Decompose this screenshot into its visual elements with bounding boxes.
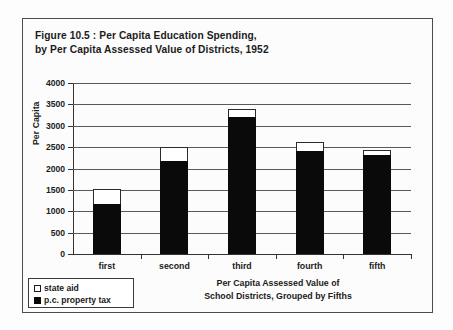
title-line-2: by Per Capita Assessed Value of District… <box>35 43 415 57</box>
x-axis-tick <box>276 254 277 259</box>
figure-frame: Figure 10.5 : Per Capita Education Spend… <box>22 18 433 313</box>
bar-segment-state-aid[interactable] <box>296 142 324 151</box>
bar-stack[interactable] <box>160 147 188 254</box>
bar-group-second[interactable]: second <box>141 83 209 254</box>
title-line-1: Figure 10.5 : Per Capita Education Spend… <box>35 29 415 43</box>
x-axis-tick-label-second: second <box>141 261 209 271</box>
y-axis-tick-label: 0 <box>60 249 65 259</box>
bar-segment-property-tax[interactable] <box>93 204 121 254</box>
x-axis-tick-label-fourth: fourth <box>276 261 344 271</box>
bar-segment-property-tax[interactable] <box>160 161 188 254</box>
bar-segment-state-aid[interactable] <box>228 109 256 118</box>
gridline <box>73 254 411 255</box>
bar-segment-state-aid[interactable] <box>93 189 121 204</box>
bar-stack[interactable] <box>363 150 391 254</box>
bar-stack[interactable] <box>228 109 256 254</box>
bar-segment-property-tax[interactable] <box>363 155 391 254</box>
y-axis-tick-label: 1500 <box>46 185 65 195</box>
bar-stack[interactable] <box>93 189 121 254</box>
y-axis-tick-label: 3500 <box>46 99 65 109</box>
y-axis-tick-label: 4000 <box>46 78 65 88</box>
x-axis-tick <box>411 254 412 259</box>
legend-item-label: state aid <box>44 283 79 293</box>
page-title: Figure 10.5 : Per Capita Education Spend… <box>35 29 415 57</box>
y-axis-tick-label: 1000 <box>46 206 65 216</box>
bar-group-first[interactable]: first <box>73 83 141 254</box>
x-axis-tick-label-first: first <box>73 261 141 271</box>
y-axis-tick-label: 3000 <box>46 121 65 131</box>
bar-segment-state-aid[interactable] <box>160 147 188 161</box>
bar-segment-property-tax[interactable] <box>296 151 324 254</box>
legend-item[interactable]: p.c. property tax <box>34 294 128 306</box>
figure-root: Figure 10.5 : Per Capita Education Spend… <box>0 0 453 330</box>
x-axis-tick <box>208 254 209 259</box>
x-axis-tick <box>141 254 142 259</box>
y-axis-tick <box>68 254 73 255</box>
bar-stack[interactable] <box>296 142 324 254</box>
filled-square-swatch-icon <box>34 297 41 304</box>
x-axis-tick <box>343 254 344 259</box>
plot-area: 40003500300025002000150010005000 firstse… <box>73 83 411 254</box>
x-axis-title-line-1: Per Capita Assessed Value of <box>143 277 413 290</box>
legend: state aidp.c. property tax <box>28 278 134 308</box>
legend-item-label: p.c. property tax <box>44 295 111 305</box>
open-square-swatch-icon <box>34 285 41 292</box>
x-axis-title: Per Capita Assessed Value of School Dist… <box>143 277 413 303</box>
y-axis-tick-label: 500 <box>51 228 65 238</box>
bar-segment-property-tax[interactable] <box>228 117 256 254</box>
y-axis-tick-label: 2000 <box>46 164 65 174</box>
x-axis-tick-label-third: third <box>208 261 276 271</box>
y-axis-tick-label: 2500 <box>46 142 65 152</box>
bar-group-fifth[interactable]: fifth <box>343 83 411 254</box>
x-axis-title-line-2: School Districts, Grouped by Fifths <box>143 290 413 303</box>
legend-item[interactable]: state aid <box>34 282 128 294</box>
bar-group-third[interactable]: third <box>208 83 276 254</box>
y-axis-title: Per Capita <box>31 101 41 145</box>
x-axis-tick-label-fifth: fifth <box>343 261 411 271</box>
bar-group-fourth[interactable]: fourth <box>276 83 344 254</box>
